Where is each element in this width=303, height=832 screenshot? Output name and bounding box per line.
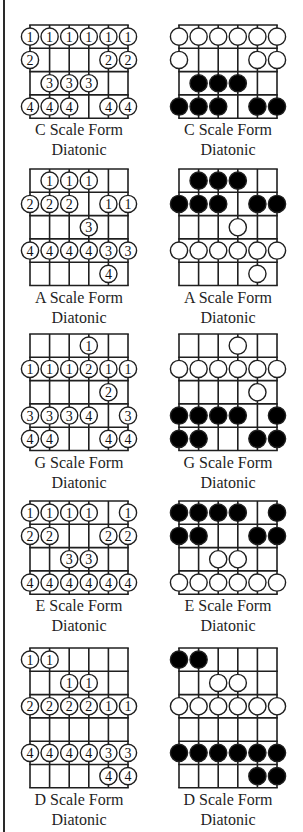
filled-note-dot (268, 744, 285, 761)
diagram-title: D Scale Form (153, 790, 303, 809)
filled-note-dot (190, 651, 207, 668)
open-note-dot (229, 698, 246, 715)
open-note-dot (268, 698, 285, 715)
filled-note-dot (229, 744, 246, 761)
filled-note-dot (170, 651, 187, 668)
diagram-subtitle: Diatonic (153, 810, 303, 829)
filled-note-dot (268, 768, 285, 785)
open-note-dot (170, 698, 187, 715)
open-note-dot (190, 698, 207, 715)
fretboard-grid (0, 0, 303, 832)
filled-note-dot (210, 744, 227, 761)
filled-note-dot (170, 744, 187, 761)
open-note-dot (210, 674, 227, 691)
filled-note-dot (249, 768, 266, 785)
open-note-dot (229, 674, 246, 691)
open-note-dot (249, 698, 266, 715)
open-note-dot (210, 698, 227, 715)
filled-note-dot (249, 744, 266, 761)
filled-note-dot (190, 744, 207, 761)
